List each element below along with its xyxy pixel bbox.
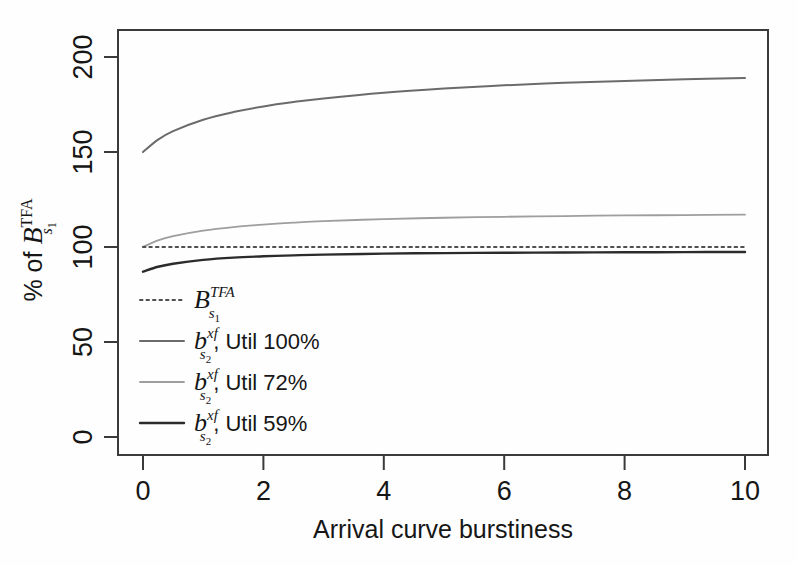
y-tick-label: 100 — [68, 224, 98, 269]
x-tick-label: 8 — [617, 476, 632, 506]
legend-label-1: bxfs2, Util 100% — [194, 325, 320, 365]
y-axis-title: % of BTFAs1 — [17, 198, 59, 302]
x-axis-title: Arrival curve burstiness — [313, 515, 573, 543]
data-series-group — [143, 78, 745, 272]
series-line-3 — [143, 252, 745, 272]
chart-legend: BTFAs1bxfs2, Util 100%bxfs2, Util 72%bxf… — [140, 284, 320, 447]
chart-figure: 050100150200 0246810 BTFAs1bxfs2, Util 1… — [0, 0, 798, 566]
series-line-1 — [143, 78, 745, 152]
plot-canvas: 050100150200 0246810 BTFAs1bxfs2, Util 1… — [0, 0, 798, 566]
x-tick-label: 10 — [730, 476, 760, 506]
y-tick-label: 150 — [68, 129, 98, 174]
y-axis-ticks: 050100150200 — [68, 34, 118, 444]
x-axis-ticks: 0246810 — [135, 455, 760, 506]
series-line-2 — [143, 215, 745, 247]
legend-label-3: bxfs2, Util 59% — [194, 407, 307, 447]
svg-text:% of BTFAs1: % of BTFAs1 — [17, 198, 59, 302]
x-tick-label: 6 — [497, 476, 512, 506]
y-tick-label: 200 — [68, 34, 98, 79]
x-tick-label: 4 — [376, 476, 391, 506]
y-tick-label: 0 — [68, 429, 98, 444]
legend-label-0: BTFAs1 — [194, 284, 235, 324]
legend-label-2: bxfs2, Util 72% — [194, 366, 307, 406]
y-tick-label: 50 — [68, 327, 98, 357]
x-tick-label: 2 — [256, 476, 271, 506]
x-tick-label: 0 — [135, 476, 150, 506]
